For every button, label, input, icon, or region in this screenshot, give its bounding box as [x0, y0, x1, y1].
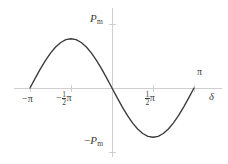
p-symbol: P: [90, 12, 97, 24]
y-label-negative-pm: −Pm: [84, 135, 103, 146]
y-label-positive-pm: Pm: [90, 13, 103, 24]
plot-area: [0, 0, 228, 164]
x-label-minus-half-pi: −12π: [56, 91, 71, 107]
x-label-pi: π: [197, 67, 202, 77]
pi-symbol: π: [150, 92, 155, 103]
fraction-numerator: 1: [62, 91, 67, 99]
fraction-one-half: 12: [62, 91, 67, 107]
x-label-minus-pi: −π: [22, 94, 33, 104]
power-angle-curve-figure: Pm −Pm −π −12π 12π π δ: [0, 0, 228, 164]
x-axis-name-delta: δ: [209, 92, 214, 103]
p-subscript-m: m: [97, 139, 103, 148]
fraction-numerator: 1: [145, 91, 150, 99]
fraction-denominator: 2: [145, 98, 150, 107]
p-subscript-m: m: [97, 17, 103, 26]
fraction-denominator: 2: [62, 98, 67, 107]
fraction-one-half: 12: [145, 91, 150, 107]
pi-symbol: π: [66, 92, 71, 103]
p-symbol: P: [90, 134, 97, 146]
x-label-half-pi: 12π: [145, 91, 155, 107]
